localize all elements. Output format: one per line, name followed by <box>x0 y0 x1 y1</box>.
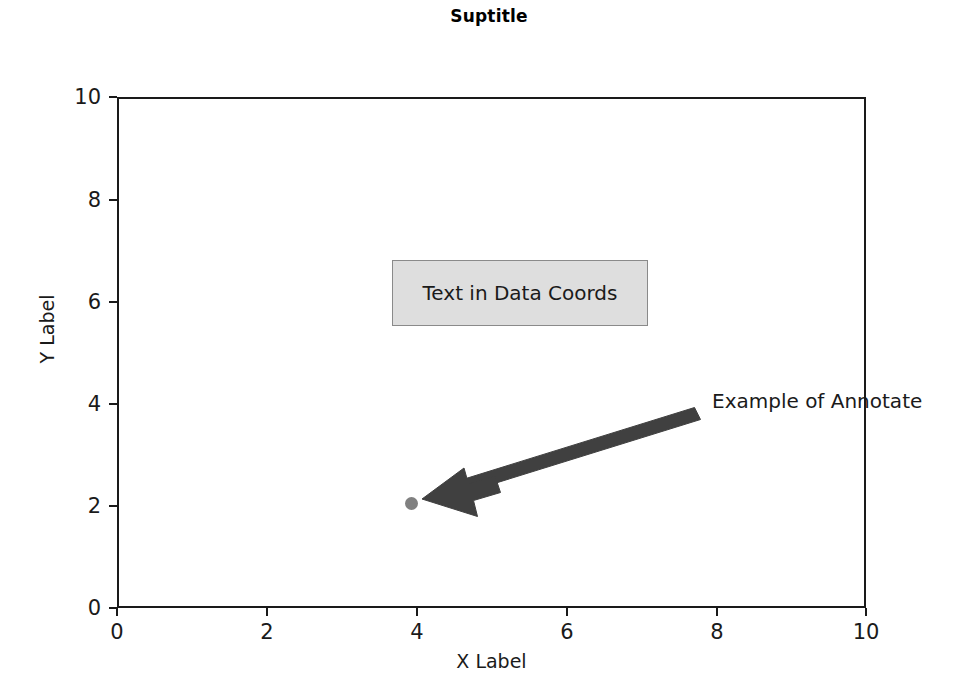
y-tick-label-2: 2 <box>41 494 101 518</box>
x-tick-label-4: 4 <box>387 620 447 644</box>
x-tick-mark-0 <box>116 608 118 616</box>
y-tick-mark-2 <box>109 505 117 507</box>
y-tick-mark-6 <box>109 301 117 303</box>
x-tick-label-8: 8 <box>687 620 747 644</box>
figure-canvas: Suptitle 0 2 4 6 8 10 0 2 4 6 8 10 X Lab… <box>0 0 978 695</box>
y-tick-label-8: 8 <box>41 188 101 212</box>
scatter-marker-point <box>405 497 418 510</box>
x-tick-label-10: 10 <box>836 620 896 644</box>
x-tick-mark-6 <box>566 608 568 616</box>
x-tick-label-0: 0 <box>87 620 147 644</box>
plot-axes-frame <box>117 97 866 608</box>
y-tick-label-0: 0 <box>41 596 101 620</box>
x-tick-label-6: 6 <box>537 620 597 644</box>
x-tick-mark-4 <box>416 608 418 616</box>
data-coords-textbox: Text in Data Coords <box>392 260 648 326</box>
y-tick-mark-4 <box>109 403 117 405</box>
x-axis-label: X Label <box>117 650 866 672</box>
x-tick-label-2: 2 <box>237 620 297 644</box>
x-tick-mark-2 <box>266 608 268 616</box>
y-axis-label: Y Label <box>36 249 58 409</box>
y-tick-mark-10 <box>109 96 117 98</box>
annotation-label: Example of Annotate <box>712 389 922 413</box>
y-tick-mark-0 <box>109 607 117 609</box>
x-tick-mark-8 <box>716 608 718 616</box>
y-tick-label-10: 10 <box>41 85 101 109</box>
y-tick-mark-8 <box>109 199 117 201</box>
figure-suptitle: Suptitle <box>0 6 978 26</box>
data-coords-textbox-label: Text in Data Coords <box>423 281 618 305</box>
x-tick-mark-10 <box>865 608 867 616</box>
